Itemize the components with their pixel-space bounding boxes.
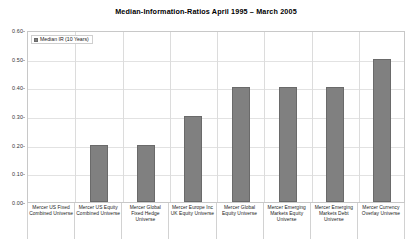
bar-slot [75,32,122,202]
y-axis-tick-label: 0.20 [12,143,23,149]
y-axis-tick-label: 0.00 [12,200,23,206]
bar[interactable] [373,59,391,202]
y-axis-tick-mark [23,117,25,118]
x-axis-category-label: Mercer US Fixed Combined Universe [29,205,73,217]
x-axis-category-label: Mercer Global Fixed Hedge Universe [123,205,167,224]
y-axis-tick-label: 0.60 [12,28,23,34]
x-axis-category-label: Mercer Emerging Markets Equity Universe [265,205,309,224]
x-axis-category-cell: Mercer Global Equity Universe [217,203,264,239]
y-axis-tick-mark [23,146,25,147]
y-axis-tick-label: 0.10 [12,171,23,177]
chart-title: Median-Information-Ratios April 1995 – M… [0,7,412,16]
y-axis-tick-mark [23,31,25,32]
x-axis-category-label: Mercer Global Equity Universe [218,205,262,217]
x-axis-category-cell: Mercer Global Fixed Hedge Universe [122,203,169,239]
x-axis-category-label: Mercer Emerging Markets Debt Universe [312,205,356,224]
y-axis-tick-mark [23,174,25,175]
bar-chart: Median-Information-Ratios April 1995 – M… [0,0,412,239]
x-axis-category-label: Mercer Europe Inc UK Equity Universe [170,205,214,217]
y-axis-tick-label: 0.50 [12,57,23,63]
bar[interactable] [326,87,344,202]
x-axis-category-cell: Mercer Emerging Markets Debt Universe [311,203,358,239]
y-axis-tick-label: 0.40 [12,85,23,91]
chart-legend: Median IR (10 Years) [31,35,93,44]
bars-layer [28,32,404,202]
y-axis-tick-label: 0.30 [12,114,23,120]
bar-slot [170,32,217,202]
legend-label: Median IR (10 Years) [40,37,89,42]
plot-area [27,31,405,203]
bar[interactable] [279,87,297,202]
x-axis-category-cell: Mercer Europe Inc UK Equity Universe [169,203,216,239]
bar-slot [264,32,311,202]
y-axis: 0.600.500.400.300.200.100.00 [0,31,25,203]
bar[interactable] [184,116,202,202]
bar-slot [123,32,170,202]
bar-slot [359,32,405,202]
x-axis-category-cell: Mercer Currency Overlay Universe [358,203,405,239]
x-axis-category-label: Mercer US Equity Combined Universe [76,205,120,217]
legend-swatch-icon [34,38,38,42]
bar[interactable] [232,87,250,202]
y-axis-tick-mark [23,88,25,89]
x-axis-category-labels: Mercer US Fixed Combined UniverseMercer … [27,203,405,239]
plot-area-wrapper [27,31,405,203]
bar[interactable] [137,145,155,202]
y-axis-tick-mark [23,60,25,61]
x-axis-category-cell: Mercer US Fixed Combined Universe [27,203,75,239]
bar-slot [217,32,264,202]
x-axis-category-cell: Mercer Emerging Markets Equity Universe [264,203,311,239]
x-axis-category-label: Mercer Currency Overlay Universe [359,205,403,217]
x-axis-category-cell: Mercer US Equity Combined Universe [75,203,122,239]
bar-slot [312,32,359,202]
bar-slot [28,32,75,202]
y-axis-tick-mark [23,203,25,204]
bar[interactable] [90,145,108,202]
